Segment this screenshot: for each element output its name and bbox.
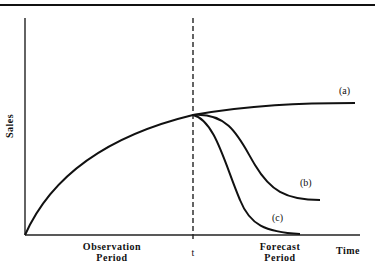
observation-period-label-line2: Period — [96, 252, 127, 262]
observation-period-label-line1: Observation — [83, 241, 141, 252]
curve-a-label: (a) — [339, 85, 350, 97]
sales-forecast-diagram: (a) (b) (c) Sales Observation Period t F… — [0, 0, 375, 262]
curve-c-label: (c) — [272, 212, 283, 224]
forecast-period-label-line2: Period — [264, 252, 295, 262]
curve-c — [193, 115, 300, 234]
curve-a — [25, 103, 355, 235]
curve-b-label: (b) — [300, 177, 312, 189]
time-t-label: t — [192, 247, 195, 258]
y-axis-label: Sales — [4, 114, 15, 138]
forecast-period-label-line1: Forecast — [260, 241, 301, 252]
x-axis-label: Time — [336, 245, 360, 256]
